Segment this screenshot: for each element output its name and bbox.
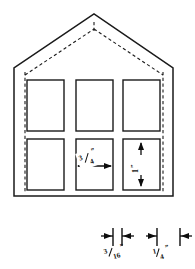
- mullion-width-detail: 3 16 ”: [101, 228, 134, 263]
- detail-a-label: 3 16 ”: [103, 242, 127, 263]
- detail-a-numerator: 3: [103, 247, 109, 256]
- window-top-right[interactable]: [123, 80, 160, 131]
- facade-elevation-drawing: 3 4 ” 1 ” 3: [0, 0, 195, 269]
- detail-b-label: 1 4 ”: [152, 243, 172, 263]
- detail-a-arrow-right-icon: [104, 233, 112, 239]
- window-top-center[interactable]: [76, 80, 113, 131]
- detail-b-numerator: 1: [152, 247, 158, 256]
- window-bottom-left[interactable]: [27, 139, 64, 190]
- detail-b-arrow-right-icon: [148, 233, 156, 239]
- window-grid-group: [27, 80, 160, 190]
- detail-b-fraction-bar: [155, 249, 161, 257]
- frame-width-detail: 1 4 ”: [146, 228, 192, 263]
- detail-a-arrow-left-icon: [123, 233, 131, 239]
- inner-roof-right-dashed: [94, 29, 163, 75]
- technical-drawing-canvas: 3 4 ” 1 ” 3: [0, 0, 195, 269]
- detail-b-denominator: 4: [159, 253, 165, 262]
- window-top-left[interactable]: [27, 80, 64, 131]
- detail-b-unit-mark: ”: [164, 243, 170, 252]
- detail-a-fraction-bar: [107, 248, 114, 256]
- inner-roof-left-dashed: [25, 29, 94, 75]
- detail-b-arrow-left-icon: [181, 233, 189, 239]
- detail-a-denominator: 16: [112, 251, 121, 261]
